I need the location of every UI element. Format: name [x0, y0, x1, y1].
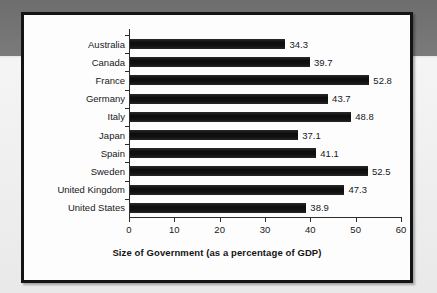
y-tick-mark [125, 108, 129, 109]
x-tick-label: 10 [159, 224, 189, 235]
value-label: 37.1 [302, 131, 321, 141]
category-label: Japan [0, 131, 125, 141]
category-label: Italy [0, 112, 125, 122]
bar [130, 185, 344, 195]
x-tick-mark [310, 218, 311, 222]
x-tick-label: 60 [386, 224, 416, 235]
y-tick-mark [125, 162, 129, 163]
x-tick-mark [174, 218, 175, 222]
y-tick-mark [125, 71, 129, 72]
x-tick-mark [265, 218, 266, 222]
value-label: 43.7 [332, 94, 351, 104]
y-tick-mark [125, 144, 129, 145]
x-tick-label: 30 [250, 224, 280, 235]
x-tick-label: 50 [341, 224, 371, 235]
y-tick-mark [125, 199, 129, 200]
chart-panel: AustraliaCanadaFranceGermanyItalyJapanSp… [21, 12, 413, 283]
category-label: Sweden [0, 167, 125, 177]
value-label: 52.5 [372, 167, 391, 177]
category-label: Spain [0, 149, 125, 159]
x-tick-label: 20 [205, 224, 235, 235]
category-label: Canada [0, 58, 125, 68]
x-tick-mark [401, 218, 402, 222]
value-label: 39.7 [314, 58, 333, 68]
value-label: 34.3 [289, 40, 308, 50]
value-label: 48.8 [355, 112, 374, 122]
bar [130, 75, 369, 85]
value-label: 38.9 [310, 203, 329, 213]
bar [130, 112, 351, 122]
y-tick-mark [125, 35, 129, 36]
y-tick-mark [125, 53, 129, 54]
x-tick-mark [220, 218, 221, 222]
bar [130, 57, 310, 67]
value-label: 47.3 [348, 185, 367, 195]
x-tick-label: 40 [295, 224, 325, 235]
value-label: 52.8 [373, 76, 392, 86]
bar [130, 39, 285, 49]
bar [130, 203, 306, 213]
x-tick-label: 0 [114, 224, 144, 235]
value-label: 41.1 [320, 149, 339, 159]
bar [130, 130, 298, 140]
y-tick-mark [125, 126, 129, 127]
x-tick-mark [129, 218, 130, 222]
category-label: France [0, 76, 125, 86]
bar [130, 166, 368, 176]
y-tick-mark [125, 181, 129, 182]
bar [130, 94, 328, 104]
x-tick-mark [356, 218, 357, 222]
bar [130, 148, 316, 158]
plot-area: AustraliaCanadaFranceGermanyItalyJapanSp… [24, 15, 410, 280]
category-label: Australia [0, 40, 125, 50]
y-tick-mark [125, 90, 129, 91]
category-label: United States [0, 203, 125, 213]
x-axis-title: Size of Government (as a percentage of G… [24, 247, 410, 258]
category-label: Germany [0, 94, 125, 104]
category-label: United Kingdom [0, 185, 125, 195]
